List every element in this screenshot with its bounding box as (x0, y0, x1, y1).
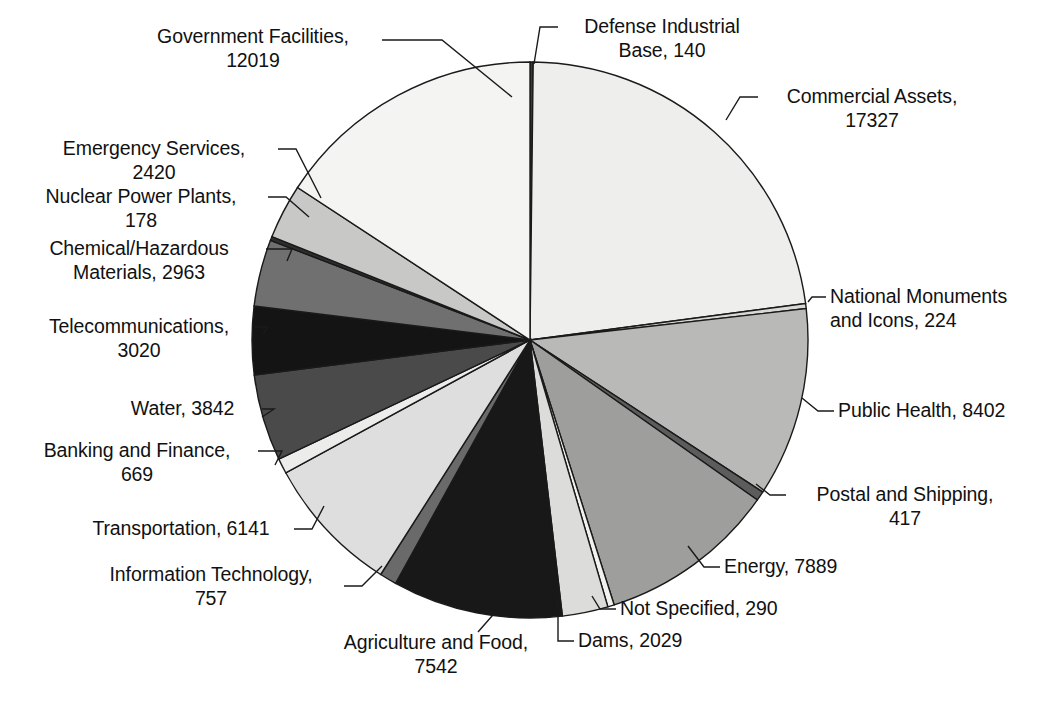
pie-label-defense-industrial-base: Defense IndustrialBase, 140 (562, 14, 762, 62)
pie-label-postal-and-shipping: Postal and Shipping,417 (790, 482, 1020, 530)
pie-label-line: Water, 3842 (110, 396, 255, 420)
pie-label-line: Telecommunications, (24, 314, 254, 338)
pie-label-line: Government Facilities, (128, 24, 378, 48)
pie-label-line: Commercial Assets, (762, 84, 982, 108)
leader-line-national-monuments-and-icons (808, 297, 826, 302)
leader-line-defense-industrial-base (534, 27, 558, 64)
pie-label-line: 3020 (24, 338, 254, 362)
pie-label-not-specified: Not Specified, 290 (620, 596, 820, 620)
pie-label-information-technology: Information Technology,757 (80, 562, 342, 610)
pie-label-line: National Monuments (830, 284, 1049, 308)
chart-canvas: Government Facilities,12019Defense Indus… (0, 0, 1049, 701)
pie-label-telecommunications: Telecommunications,3020 (24, 314, 254, 362)
pie-label-line: 669 (18, 462, 256, 486)
pie-label-line: 17327 (762, 108, 982, 132)
pie-label-line: Chemical/Hazardous (14, 236, 264, 260)
pie-label-line: Postal and Shipping, (790, 482, 1020, 506)
pie-label-line: Materials, 2963 (14, 260, 264, 284)
pie-label-dams: Dams, 2029 (578, 628, 718, 652)
pie-label-line: and Icons, 224 (830, 308, 1049, 332)
pie-label-transportation: Transportation, 6141 (72, 516, 290, 540)
pie-label-line: Energy, 7889 (724, 554, 884, 578)
pie-label-line: Not Specified, 290 (620, 596, 820, 620)
pie-label-chemical-hazardous-materials: Chemical/HazardousMaterials, 2963 (14, 236, 264, 284)
pie-label-line: Information Technology, (80, 562, 342, 586)
pie-label-line: Dams, 2029 (578, 628, 718, 652)
pie-label-national-monuments-and-icons: National Monumentsand Icons, 224 (830, 284, 1049, 332)
pie-label-line: 178 (16, 208, 266, 232)
pie-label-energy: Energy, 7889 (724, 554, 884, 578)
pie-label-nuclear-power-plants: Nuclear Power Plants,178 (16, 184, 266, 232)
pie-label-water: Water, 3842 (110, 396, 255, 420)
pie-label-government-facilities: Government Facilities,12019 (128, 24, 378, 72)
pie-label-line: Nuclear Power Plants, (16, 184, 266, 208)
pie-label-emergency-services: Emergency Services,2420 (34, 136, 274, 184)
pie-label-line: Emergency Services, (34, 136, 274, 160)
pie-label-line: Defense Industrial (562, 14, 762, 38)
pie-label-line: Agriculture and Food, (316, 630, 556, 654)
leader-line-public-health (802, 398, 834, 411)
pie-label-line: 2420 (34, 160, 274, 184)
pie-label-line: 417 (790, 506, 1020, 530)
pie-label-line: 757 (80, 586, 342, 610)
pie-label-banking-and-finance: Banking and Finance,669 (18, 438, 256, 486)
pie-label-line: 7542 (316, 654, 556, 678)
pie-slices (252, 62, 808, 618)
pie-label-line: Transportation, 6141 (72, 516, 290, 540)
pie-label-line: Base, 140 (562, 38, 762, 62)
pie-label-line: Public Health, 8402 (838, 398, 1048, 422)
pie-label-line: Banking and Finance, (18, 438, 256, 462)
pie-label-commercial-assets: Commercial Assets,17327 (762, 84, 982, 132)
pie-label-line: 12019 (128, 48, 378, 72)
pie-label-public-health: Public Health, 8402 (838, 398, 1048, 422)
pie-label-agriculture-and-food: Agriculture and Food,7542 (316, 630, 556, 678)
leader-line-commercial-assets (726, 97, 758, 120)
